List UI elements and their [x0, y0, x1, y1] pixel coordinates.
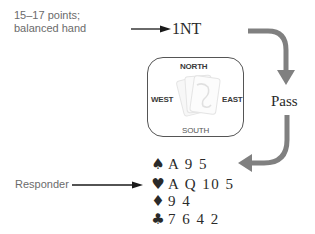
hand-row-hearts: ♥ A Q 10 5	[148, 175, 235, 193]
opener-annotation-line2: balanced hand	[14, 22, 86, 35]
direction-north: NORTH	[180, 62, 207, 71]
club-icon: ♣	[148, 210, 168, 228]
direction-south: SOUTH	[182, 126, 209, 135]
spade-cards: A 9 5	[168, 156, 208, 173]
diamond-icon: ♦	[148, 192, 168, 210]
bid-flow-arrow-icon	[248, 31, 295, 85]
hand-row-diamonds: ♦ 9 4	[148, 192, 191, 210]
club-cards: 7 6 4 2	[168, 211, 220, 228]
responder-flow-arrow-icon	[238, 115, 287, 172]
diamond-cards: 9 4	[168, 193, 191, 210]
pass-bid: Pass	[271, 92, 298, 110]
direction-west: WEST	[151, 95, 173, 104]
spade-icon: ♠	[148, 155, 168, 173]
opener-annotation: 15–17 points; balanced hand	[14, 9, 86, 35]
opener-annotation-line1: 15–17 points;	[14, 9, 86, 22]
hand-row-clubs: ♣ 7 6 4 2	[148, 210, 220, 228]
hand-row-spades: ♠ A 9 5	[148, 155, 208, 173]
opener-arrow-icon	[131, 26, 171, 33]
heart-cards: A Q 10 5	[168, 176, 235, 193]
responder-arrow-icon	[72, 182, 143, 189]
responder-annotation: Responder	[15, 178, 69, 191]
heart-icon: ♥	[148, 175, 168, 193]
opener-bid: 1NT	[172, 20, 201, 38]
direction-east: EAST	[222, 95, 243, 104]
